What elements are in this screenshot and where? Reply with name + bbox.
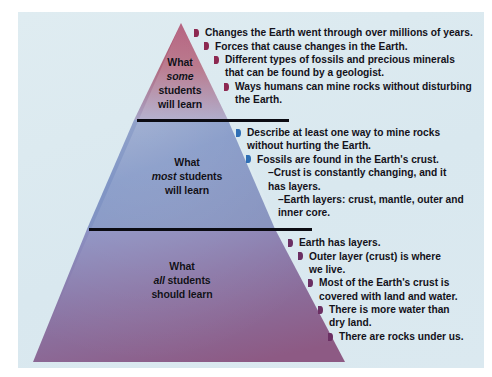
list-item-text: Fossils are found in the Earth's crust. — [246, 153, 490, 166]
list-item-text: Outer layer (crust) is where — [298, 250, 490, 263]
tier-some-line1: What — [167, 56, 192, 68]
list-sub-item-text: –Earth layers: crust, mantle, outer and — [256, 193, 490, 206]
list-item-continuation: without hurting the Earth. — [236, 139, 490, 152]
list-sub-item: –Crust is constantly changing, and it ha… — [246, 166, 490, 192]
bullet-list-all: Earth has layers. Outer layer (crust) is… — [288, 236, 490, 344]
list-item: Ways humans can mine rocks without distu… — [224, 80, 490, 106]
tier-most-line1: What — [174, 156, 199, 168]
bullet-arrow-icon — [328, 333, 333, 341]
list-item: There are rocks under us. — [328, 330, 490, 343]
tier-divider-upper — [137, 119, 289, 122]
list-sub-item-continuation: has layers. — [246, 180, 490, 193]
tier-most-line3: students — [179, 170, 222, 182]
list-item-text: Changes the Earth went through over mill… — [194, 26, 490, 39]
tier-most-line2: most — [152, 170, 177, 182]
bullet-arrow-icon — [194, 29, 199, 37]
bullet-arrow-icon — [214, 56, 219, 64]
list-item-text: Describe at least one way to mine rocks — [236, 126, 490, 139]
list-item-continuation: that can be found by a geologist. — [214, 66, 490, 79]
bullet-arrow-icon — [288, 239, 293, 247]
list-item: Earth has layers. — [288, 236, 490, 249]
list-item-text: Ways humans can mine rocks without distu… — [224, 80, 490, 93]
list-item-text: Most of the Earth's crust is — [308, 276, 490, 289]
list-item-text: There is more water than — [318, 303, 490, 316]
list-item-continuation: dry land. — [318, 316, 490, 329]
list-item: Different types of fossils and precious … — [214, 53, 490, 79]
list-sub-item-text: –Crust is constantly changing, and it — [246, 166, 490, 179]
list-item: Outer layer (crust) is where we live. — [298, 250, 490, 276]
bullet-arrow-icon — [224, 83, 229, 91]
list-item-text: Forces that cause changes in the Earth. — [204, 40, 490, 53]
tier-some-line2: some — [166, 70, 193, 82]
list-sub-item: –Earth layers: crust, mantle, outer and … — [256, 193, 490, 219]
tier-all-line4: should learn — [151, 288, 212, 300]
list-item-text: There are rocks under us. — [328, 330, 490, 343]
bullet-arrow-icon — [236, 129, 241, 137]
list-item-text: Different types of fossils and precious … — [214, 53, 490, 66]
list-item-continuation: the Earth. — [224, 93, 490, 106]
list-item: Changes the Earth went through over mill… — [194, 26, 490, 39]
tier-all-line3: students — [168, 274, 211, 286]
list-item: Most of the Earth's crust is covered wit… — [308, 276, 490, 302]
bullet-list-some: Changes the Earth went through over mill… — [194, 26, 490, 107]
list-item: Describe at least one way to mine rocks … — [236, 126, 490, 152]
figure-root: What some students will learn What most … — [0, 0, 492, 377]
list-item: Fossils are found in the Earth's crust. — [246, 153, 490, 166]
list-item-text: Earth has layers. — [288, 236, 490, 249]
list-item-continuation: we live. — [298, 263, 490, 276]
list-item-continuation: covered with land and water. — [308, 290, 490, 303]
list-sub-item-continuation: inner core. — [256, 206, 490, 219]
bullet-list-most: Describe at least one way to mine rocks … — [236, 126, 490, 220]
list-item: Forces that cause changes in the Earth. — [204, 40, 490, 53]
tier-divider-lower — [89, 228, 312, 231]
tier-all-line1: What — [169, 260, 194, 272]
tier-most-line4: will learn — [165, 184, 209, 196]
tier-all-line2: all — [153, 274, 164, 286]
bullet-arrow-icon — [318, 306, 323, 314]
tier-label-all: What all students should learn — [94, 259, 270, 301]
list-item: There is more water than dry land. — [318, 303, 490, 329]
